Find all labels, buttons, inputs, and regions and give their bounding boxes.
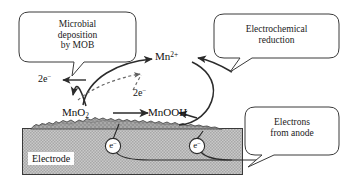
callout-line: Electrons xyxy=(245,117,339,128)
arrow-two-electrons-dashed xyxy=(78,74,140,100)
callout-line: by MOB xyxy=(19,40,136,51)
callout-line: deposition xyxy=(19,30,136,41)
label-two-electrons-left: 2e− xyxy=(38,73,51,84)
callout-line: Electrochemical xyxy=(214,24,339,35)
callout-line: from anode xyxy=(245,128,339,139)
label-two-electrons-dashed-charge: − xyxy=(142,87,146,94)
label-electron-carrier-1: e− xyxy=(104,140,122,150)
label-electron-carrier-2-charge: − xyxy=(197,140,201,147)
callout-line: reduction xyxy=(214,35,339,46)
label-two-electrons-dashed: 2e− xyxy=(133,87,146,98)
callout-electrochemical-reduction-text: Electrochemical reduction xyxy=(214,24,339,45)
label-electrode: Electrode xyxy=(28,152,74,165)
label-mno2: MnO2 xyxy=(62,106,89,120)
label-mn2plus: Mn2+ xyxy=(155,50,178,62)
label-mnooh: MnOOH xyxy=(148,106,187,118)
label-electron-carrier-1-charge: − xyxy=(113,140,117,147)
callout-microbial-deposition-text: Microbial deposition by MOB xyxy=(19,19,136,51)
mineral-deposit-layer xyxy=(31,118,222,130)
callout-electrons-from-anode-text: Electrons from anode xyxy=(245,117,339,138)
callout-line: Microbial xyxy=(19,19,136,30)
label-mn2plus-charge: 2+ xyxy=(170,50,178,59)
diagram-canvas: Microbial deposition by MOB Electrochemi… xyxy=(0,0,350,184)
arrow-microbial-oxidation xyxy=(83,59,152,105)
label-mn2plus-base: Mn xyxy=(155,50,170,62)
label-two-electrons-left-charge: − xyxy=(47,73,51,80)
label-mno2-base: MnO xyxy=(62,106,85,118)
label-mno2-sub: 2 xyxy=(85,111,89,120)
label-electron-carrier-2: e− xyxy=(188,140,206,150)
